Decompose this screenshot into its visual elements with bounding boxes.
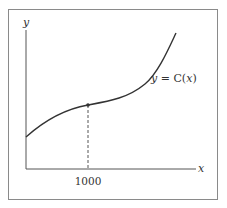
x-axis-label: x (198, 162, 205, 175)
figure-frame (9, 10, 218, 200)
curve-label: y = C(x) (150, 72, 197, 85)
cost-curve (26, 33, 176, 137)
x-tick-1000: 1000 (75, 175, 102, 187)
curve-label-eq: = (157, 72, 173, 85)
curve-label-c: C( (173, 72, 186, 85)
y-axis-label: y (22, 16, 30, 29)
curve-label-close: ) (192, 72, 196, 85)
inflection-point (86, 103, 90, 107)
cost-function-chart: y x 1000 y = C(x) (0, 0, 227, 208)
